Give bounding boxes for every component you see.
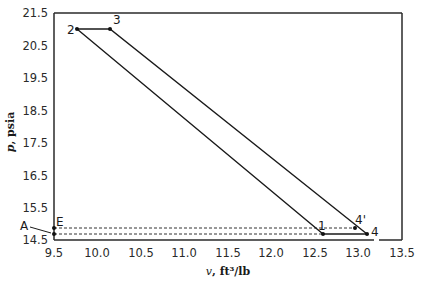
data-points	[52, 27, 369, 236]
plot-frame	[54, 13, 402, 240]
dashed-lines	[54, 228, 355, 234]
x-tick: 12.5	[302, 246, 328, 260]
x-tick: 13.0	[345, 246, 371, 260]
x-tick: 11.5	[215, 246, 241, 260]
y-tick: 20.5	[22, 39, 48, 53]
label-2: 2	[67, 23, 75, 37]
y-tick: 21.5	[22, 6, 48, 20]
x-tick: 10.0	[84, 246, 110, 260]
y-tick: 16.5	[22, 169, 48, 183]
x-tick: 13.5	[389, 246, 415, 260]
y-tick: 18.5	[22, 104, 48, 118]
y-axis-ticks: 21.5 20.5 19.5 18.5 17.5 16.5 15.5 14.5	[22, 6, 48, 247]
point-3	[108, 27, 112, 31]
label-3: 3	[113, 13, 121, 27]
x-axis-ticks: 9.5 10.0 10.5 11.0 11.5 12.0 12.5 13.0 1…	[45, 246, 415, 260]
y-tick: 17.5	[22, 136, 48, 150]
x-tick: 10.5	[128, 246, 154, 260]
x-tick: 12.0	[258, 246, 284, 260]
y-tick: 14.5	[22, 233, 48, 247]
point-labels: 2 3 1 4' 4 E A	[20, 13, 379, 239]
x-tick: 9.5	[45, 246, 63, 260]
y-tick: 15.5	[22, 201, 48, 215]
label-a: A	[20, 219, 29, 233]
label-4: 4	[371, 225, 379, 239]
cycle-path	[77, 29, 367, 234]
label-e: E	[56, 215, 64, 229]
point-a	[52, 232, 56, 236]
label-1: 1	[318, 219, 326, 233]
label-4-prime: 4'	[355, 213, 366, 227]
pv-diagram: 21.5 20.5 19.5 18.5 17.5 16.5 15.5 14.5 …	[0, 0, 421, 283]
point-4	[365, 232, 369, 236]
x-axis-label: v, ft³/lb	[206, 265, 251, 278]
point-2	[75, 27, 79, 31]
y-axis-label: p, psia	[4, 112, 17, 153]
y-tick: 19.5	[22, 71, 48, 85]
x-tick: 11.0	[171, 246, 197, 260]
